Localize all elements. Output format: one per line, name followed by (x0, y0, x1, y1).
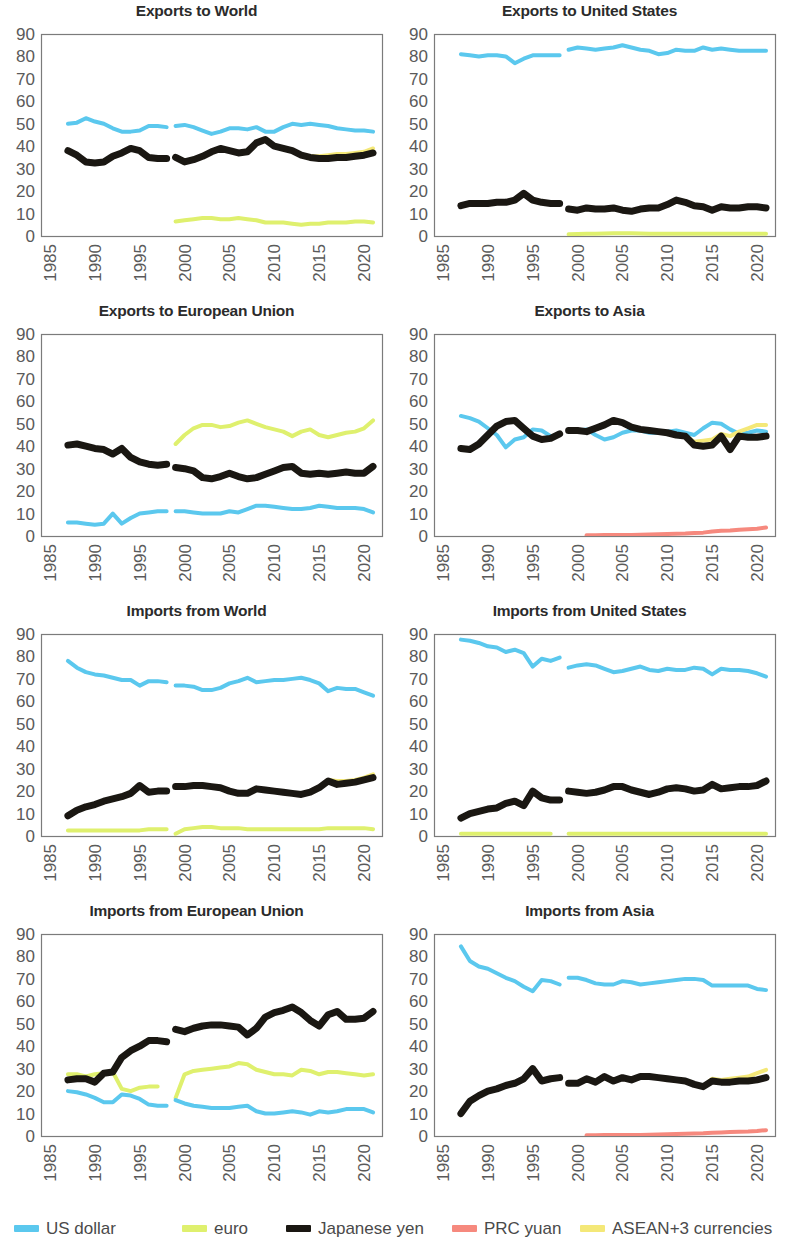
chart-panel: Imports from World0102030405060708090198… (0, 600, 393, 900)
x-tick-label: 2020 (355, 844, 374, 882)
legend-item-asean3[interactable]: ASEAN+3 currencies (580, 1219, 772, 1239)
chart-panel: Imports from Asia01020304050607080901985… (393, 900, 786, 1200)
y-tick-label: 70 (409, 370, 428, 389)
x-tick-label: 1995 (131, 244, 150, 282)
y-tick-label: 20 (409, 482, 428, 501)
x-tick-label: 2010 (658, 544, 677, 582)
y-tick-label: 40 (16, 137, 35, 156)
x-tick-label: 2010 (265, 544, 284, 582)
x-tick-label: 2000 (176, 544, 195, 582)
x-tick-label: 1990 (86, 244, 105, 282)
y-tick-label: 40 (16, 1037, 35, 1056)
y-tick-label: 60 (409, 92, 428, 111)
y-tick-label: 20 (16, 782, 35, 801)
y-tick-label: 40 (409, 437, 428, 456)
x-tick-label: 2010 (265, 1144, 284, 1182)
x-tick-label: 2020 (355, 244, 374, 282)
x-tick-label: 1995 (524, 544, 543, 582)
x-tick-label: 2020 (748, 844, 767, 882)
x-tick-label: 2000 (569, 1144, 588, 1182)
y-tick-label: 40 (16, 737, 35, 756)
x-tick-label: 1990 (86, 844, 105, 882)
x-tick-label: 2010 (658, 244, 677, 282)
x-tick-label: 2020 (355, 1144, 374, 1182)
y-tick-label: 70 (409, 70, 428, 89)
x-tick-label: 2015 (703, 244, 722, 282)
x-tick-label: 1995 (524, 844, 543, 882)
y-tick-label: 50 (16, 115, 35, 134)
legend-label: ASEAN+3 currencies (612, 1219, 772, 1239)
y-tick-label: 80 (16, 347, 35, 366)
x-tick-label: 2020 (748, 1144, 767, 1182)
legend-swatch-icon (182, 1225, 207, 1232)
x-tick-label: 2015 (310, 844, 329, 882)
y-tick-label: 50 (409, 1015, 428, 1034)
x-tick-label: 1985 (434, 844, 453, 882)
legend-item-jpy[interactable]: Japanese yen (286, 1219, 424, 1239)
y-tick-label: 40 (16, 437, 35, 456)
y-tick-label: 70 (16, 970, 35, 989)
plot-area: 0102030405060708090198519901995200020052… (0, 300, 393, 600)
series-line-euro (68, 829, 167, 830)
y-tick-label: 0 (26, 527, 35, 546)
y-tick-label: 60 (409, 992, 428, 1011)
y-tick-label: 40 (409, 1037, 428, 1056)
y-tick-label: 90 (409, 925, 428, 944)
x-tick-label: 1990 (479, 244, 498, 282)
x-tick-label: 1990 (86, 1144, 105, 1182)
y-tick-label: 70 (409, 670, 428, 689)
y-tick-label: 0 (419, 227, 428, 246)
x-tick-label: 1990 (479, 544, 498, 582)
y-tick-label: 80 (16, 947, 35, 966)
legend-swatch-icon (452, 1225, 477, 1232)
x-tick-label: 2000 (176, 844, 195, 882)
legend-label: PRC yuan (484, 1219, 561, 1239)
chart-legend: US dollareuroJapanese yenPRC yuanASEAN+3… (0, 1212, 786, 1245)
y-tick-label: 10 (409, 505, 428, 524)
legend-item-eur[interactable]: euro (182, 1219, 248, 1239)
x-tick-label: 2015 (310, 244, 329, 282)
x-tick-label: 2000 (569, 244, 588, 282)
x-tick-label: 2015 (703, 844, 722, 882)
chart-panel: Exports to Asia0102030405060708090198519… (393, 300, 786, 600)
y-tick-label: 60 (409, 392, 428, 411)
y-tick-label: 90 (16, 625, 35, 644)
x-tick-label: 1985 (41, 844, 60, 882)
y-tick-label: 70 (16, 70, 35, 89)
x-tick-label: 1995 (524, 1144, 543, 1182)
x-tick-label: 2005 (220, 1144, 239, 1182)
plot-area: 0102030405060708090198519901995200020052… (0, 0, 393, 300)
x-tick-label: 2015 (310, 544, 329, 582)
y-tick-label: 0 (419, 827, 428, 846)
legend-item-cny[interactable]: PRC yuan (452, 1219, 561, 1239)
x-tick-label: 2010 (265, 244, 284, 282)
figure-root: Exports to World010203040506070809019851… (0, 0, 786, 1245)
plot-area: 0102030405060708090198519901995200020052… (393, 600, 786, 900)
chart-panel: Imports from European Union0102030405060… (0, 900, 393, 1200)
y-tick-label: 10 (16, 1105, 35, 1124)
x-tick-label: 1995 (524, 244, 543, 282)
legend-item-usd[interactable]: US dollar (14, 1219, 116, 1239)
x-tick-label: 1985 (41, 1144, 60, 1182)
y-tick-label: 90 (16, 325, 35, 344)
x-tick-label: 2005 (613, 244, 632, 282)
series-line-euro (569, 233, 766, 234)
x-tick-label: 1985 (434, 244, 453, 282)
y-tick-label: 30 (16, 160, 35, 179)
y-tick-label: 80 (16, 47, 35, 66)
x-tick-label: 2010 (265, 844, 284, 882)
x-tick-label: 2015 (310, 1144, 329, 1182)
chart-panel: Exports to European Union010203040506070… (0, 300, 393, 600)
y-tick-label: 60 (16, 392, 35, 411)
chart-panel: Exports to World010203040506070809019851… (0, 0, 393, 300)
x-tick-label: 1990 (479, 1144, 498, 1182)
x-tick-label: 1985 (434, 544, 453, 582)
x-tick-label: 2020 (355, 544, 374, 582)
y-tick-label: 50 (16, 415, 35, 434)
plot-area: 0102030405060708090198519901995200020052… (0, 600, 393, 900)
y-tick-label: 60 (16, 692, 35, 711)
y-tick-label: 60 (16, 92, 35, 111)
y-tick-label: 90 (409, 625, 428, 644)
y-tick-label: 20 (16, 1082, 35, 1101)
y-tick-label: 50 (16, 715, 35, 734)
